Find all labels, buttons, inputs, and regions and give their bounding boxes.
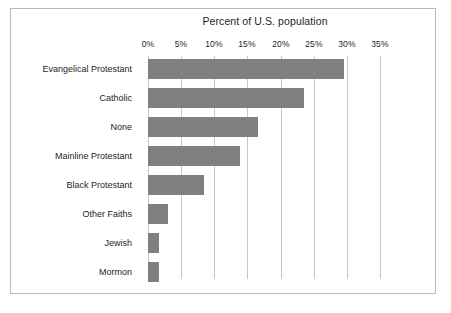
category-label: Mormon <box>99 267 132 277</box>
x-tick-label-10: 10% <box>205 39 223 49</box>
x-tick-label-25: 25% <box>305 39 323 49</box>
category-label: Black Protestant <box>66 180 132 190</box>
category-label: Other Faiths <box>82 209 132 219</box>
category-label-holder: Black Protestant <box>0 175 140 195</box>
bar-mormon <box>148 262 159 282</box>
bar-catholic <box>148 88 304 108</box>
category-label: Mainline Protestant <box>55 151 132 161</box>
x-tick-label-15: 15% <box>238 39 256 49</box>
category-label-holder: Mainline Protestant <box>0 146 140 166</box>
x-tick-label-35: 35% <box>371 39 389 49</box>
category-label-holder: Evangelical Protestant <box>0 59 140 79</box>
category-label-holder: Jewish <box>0 233 140 253</box>
chart-title: Percent of U.S. population <box>120 15 410 27</box>
gridline-35 <box>380 56 381 279</box>
bar-jewish <box>148 233 159 253</box>
bar-evangelical-protestant <box>148 59 344 79</box>
chart-figure: Percent of U.S. population 0% 5% 10% 15%… <box>0 0 451 313</box>
category-label: Catholic <box>99 93 132 103</box>
bar-mainline-protestant <box>148 146 240 166</box>
bar-none <box>148 117 258 137</box>
category-label: None <box>110 122 132 132</box>
bar-other-faiths <box>148 204 168 224</box>
category-label: Jewish <box>104 238 132 248</box>
category-label: Evangelical Protestant <box>42 64 132 74</box>
x-tick-label-20: 20% <box>272 39 290 49</box>
bar-black-protestant <box>148 175 204 195</box>
category-label-holder: None <box>0 117 140 137</box>
gridline-30 <box>347 56 348 279</box>
category-label-holder: Mormon <box>0 262 140 282</box>
x-tick-label-0: 0% <box>142 39 155 49</box>
gridline-25 <box>314 56 315 279</box>
category-label-holder: Other Faiths <box>0 204 140 224</box>
plot-area: 0% 5% 10% 15% 20% 25% 30% 35% Evangelica… <box>148 56 380 279</box>
x-tick-label-30: 30% <box>338 39 356 49</box>
category-label-holder: Catholic <box>0 88 140 108</box>
x-tick-label-5: 5% <box>175 39 188 49</box>
